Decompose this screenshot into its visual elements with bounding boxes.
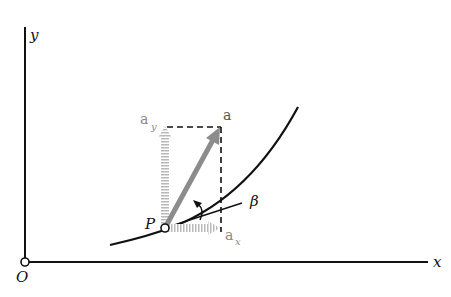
x-axis-label: x — [433, 253, 442, 271]
ay-component-arrow — [158, 126, 172, 226]
vector-a-label: a — [223, 107, 231, 123]
origin-marker — [21, 258, 29, 266]
svg-text:a: a — [225, 227, 233, 243]
point-p-label: P — [144, 215, 156, 233]
origin-label: O — [16, 268, 28, 286]
acceleration-vector — [166, 127, 220, 226]
beta-label: β — [249, 192, 259, 210]
svg-text:x: x — [235, 236, 241, 247]
y-axis-label: y — [29, 26, 39, 44]
ax-component-arrow — [168, 221, 220, 235]
diagram-canvas: y x O P β a a y a x — [0, 0, 451, 297]
svg-text:a: a — [140, 111, 148, 127]
ay-label: a y — [140, 111, 157, 132]
point-p-marker — [161, 224, 169, 232]
svg-text:y: y — [150, 121, 157, 132]
ax-label: a x — [225, 227, 241, 247]
